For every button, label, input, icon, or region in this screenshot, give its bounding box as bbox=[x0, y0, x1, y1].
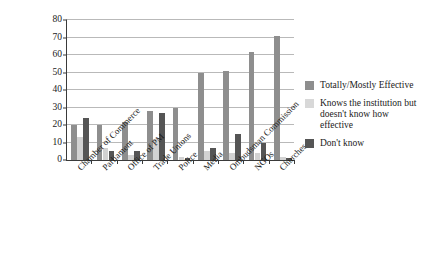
legend-swatch-icon bbox=[305, 139, 314, 148]
bar-chart: 01020304050607080 Chamber of CommercePar… bbox=[0, 0, 426, 260]
y-axis-tick-label: 70 bbox=[53, 33, 63, 43]
x-axis-tick-mark bbox=[167, 160, 168, 164]
y-axis-tick-mark bbox=[63, 160, 67, 161]
legend-swatch-icon bbox=[305, 81, 314, 90]
y-axis-tick-mark bbox=[63, 90, 67, 91]
x-axis-tick-mark bbox=[269, 160, 270, 164]
legend-swatch-icon bbox=[305, 99, 314, 108]
bar[interactable] bbox=[223, 71, 228, 160]
legend-item-label: Totally/Mostly Effective bbox=[320, 80, 413, 91]
x-axis-tick-mark bbox=[218, 160, 219, 164]
legend-item[interactable]: Knows the institution but doesn't know h… bbox=[305, 98, 423, 131]
bar-group bbox=[71, 20, 88, 160]
x-axis-tick-mark bbox=[243, 160, 244, 164]
x-axis-tick-mark bbox=[193, 160, 194, 164]
bar[interactable] bbox=[274, 36, 279, 160]
bar-group bbox=[223, 20, 240, 160]
legend-item[interactable]: Totally/Mostly Effective bbox=[305, 80, 423, 91]
y-axis-tick-mark bbox=[63, 125, 67, 126]
x-axis-tick-mark bbox=[91, 160, 92, 164]
y-axis-tick-label: 10 bbox=[53, 138, 63, 148]
bar[interactable] bbox=[198, 73, 203, 161]
x-axis-tick-mark bbox=[294, 160, 295, 164]
legend-item-label: Don't know bbox=[320, 138, 364, 149]
y-axis-tick-label: 0 bbox=[57, 155, 62, 165]
legend-item[interactable]: Don't know bbox=[305, 138, 423, 149]
y-axis-tick-label: 40 bbox=[53, 85, 63, 95]
y-axis-tick-mark bbox=[63, 55, 67, 56]
legend-item-label: Knows the institution but doesn't know h… bbox=[320, 98, 423, 131]
y-axis-labels: 01020304050607080 bbox=[36, 20, 62, 160]
legend: Totally/Mostly Effective Knows the insti… bbox=[305, 80, 423, 156]
y-axis-tick-label: 30 bbox=[53, 103, 63, 113]
y-axis-tick-mark bbox=[63, 37, 67, 38]
y-axis-tick-mark bbox=[63, 142, 67, 143]
bar-group bbox=[274, 20, 291, 160]
bar[interactable] bbox=[71, 125, 76, 160]
y-axis-tick-label: 60 bbox=[53, 50, 63, 60]
x-axis-tick-mark bbox=[142, 160, 143, 164]
y-axis-tick-label: 20 bbox=[53, 120, 63, 130]
y-axis-tick-mark bbox=[63, 20, 67, 21]
y-axis-tick-label: 50 bbox=[53, 68, 63, 78]
x-axis-tick-mark bbox=[117, 160, 118, 164]
bar-group bbox=[198, 20, 215, 160]
y-axis-tick-mark bbox=[63, 72, 67, 73]
y-axis-tick-mark bbox=[63, 107, 67, 108]
y-axis-tick-label: 80 bbox=[53, 15, 63, 25]
